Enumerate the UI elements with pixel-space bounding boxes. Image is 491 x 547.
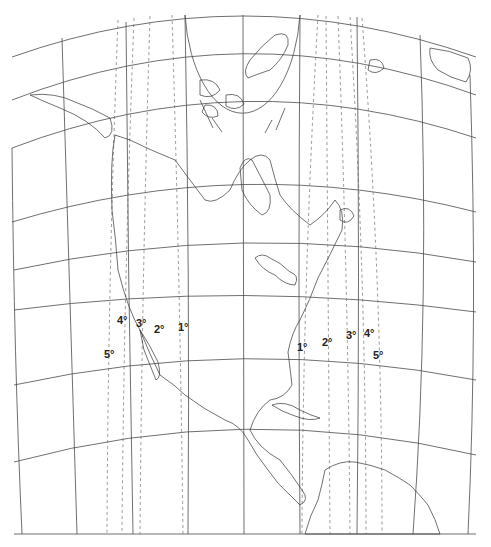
isoline-label-east-4: 4°: [364, 328, 375, 339]
isoline-label-west-1: 1°: [178, 322, 189, 333]
south-america-north: [305, 462, 440, 534]
coastlines: [30, 34, 471, 534]
hudson-bay: [240, 159, 270, 215]
cuba: [272, 403, 320, 419]
isoline-label-west-4: 4°: [117, 315, 128, 326]
greenland-coast: [245, 34, 288, 78]
isoline-label-east-1: 1°: [297, 342, 308, 353]
map-canvas: [0, 0, 491, 547]
great-lakes: [255, 255, 297, 285]
isoline-label-east-3: 3°: [346, 330, 357, 341]
meridians: [12, 15, 474, 534]
distortion-isolines: [107, 15, 382, 534]
iceland: [368, 59, 384, 72]
isoline-label-west-2: 2°: [154, 324, 165, 335]
isoline-label-east-5: 5°: [373, 350, 384, 361]
polar-circle: [185, 15, 300, 113]
arctic-islands-3: [202, 105, 218, 117]
isoline-label-east-2: 2°: [322, 337, 333, 348]
isoline-label-west-5: 5°: [104, 349, 115, 360]
alaska-coast: [30, 94, 112, 138]
isoline-label-west-3: 3°: [136, 318, 147, 329]
